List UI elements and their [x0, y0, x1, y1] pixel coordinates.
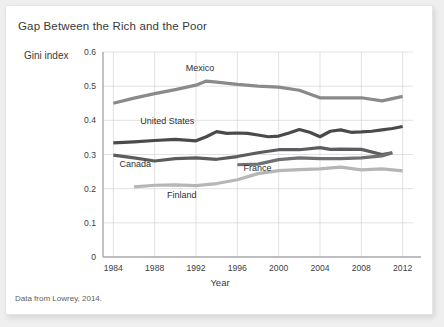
chart-plot-area: 00.10.20.30.40.50.6198419881992199620002…: [6, 6, 434, 316]
y-tick-label: 0.5: [84, 81, 96, 91]
y-tick-label: 0.2: [84, 184, 96, 194]
series-label-canada: Canada: [120, 159, 152, 169]
line-chart: 00.10.20.30.40.50.6198419881992199620002…: [6, 6, 434, 316]
figure-card: Gap Between the Rich and the Poor Gini i…: [5, 5, 433, 315]
x-tick-label: 1996: [228, 263, 247, 273]
x-tick-label: 2004: [310, 263, 329, 273]
y-tick-label: 0.4: [84, 115, 96, 125]
x-tick-label: 1988: [145, 263, 164, 273]
x-tick-label: 1984: [104, 263, 123, 273]
x-axis-title: Year: [6, 277, 434, 288]
series-line-mexico: [113, 81, 402, 103]
x-tick-label: 2008: [352, 263, 371, 273]
series-label-france: France: [244, 163, 272, 173]
x-tick-label: 1992: [186, 263, 205, 273]
series-label-united-states: United States: [140, 116, 195, 126]
y-tick-label: 0.3: [84, 150, 96, 160]
y-tick-label: 0: [91, 252, 96, 262]
series-label-finland: Finland: [167, 190, 197, 200]
y-tick-label: 0.1: [84, 218, 96, 228]
x-tick-label: 2000: [269, 263, 288, 273]
x-tick-label: 2012: [393, 263, 412, 273]
series-line-united-states: [113, 126, 402, 142]
source-note: Data from Lowrey, 2014.: [15, 294, 102, 303]
y-tick-label: 0.6: [84, 47, 96, 57]
page-root: Gap Between the Rich and the Poor Gini i…: [0, 0, 444, 327]
series-label-mexico: Mexico: [186, 63, 215, 73]
